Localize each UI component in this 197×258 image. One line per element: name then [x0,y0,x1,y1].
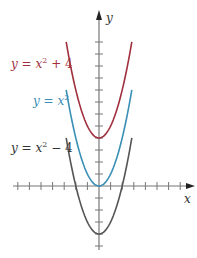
parabola-chart: y x y = x2 + 4 y = x2 y = x2 − 4 [0,0,197,258]
y-axis-label: y [105,11,113,25]
label-y-eq-x2: y = x2 [32,93,69,108]
x-axis-arrow-icon [186,183,195,189]
x-axis-label: x [184,192,191,206]
label-y-eq-x2-minus-4: y = x2 − 4 [10,140,73,155]
y-axis-arrow-icon [96,10,102,20]
axes [13,10,195,250]
label-y-eq-x2-plus-4: y = x2 + 4 [10,56,73,71]
